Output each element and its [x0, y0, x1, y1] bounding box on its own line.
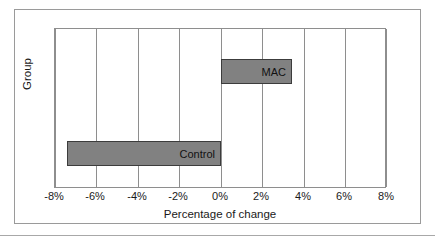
x-tick-label: 4% — [283, 191, 323, 202]
bar-label-control: Control — [180, 148, 215, 159]
x-tick-label: 0% — [200, 191, 240, 202]
gridline-x — [304, 29, 305, 187]
plot-area: MAC Control — [54, 28, 386, 188]
gridline-x — [262, 29, 263, 187]
x-tick-label: -4% — [117, 191, 157, 202]
gridline-x — [386, 29, 387, 187]
x-tick-label: 8% — [366, 191, 406, 202]
gridline-x-zero — [221, 29, 222, 187]
x-tick-label: -2% — [158, 191, 198, 202]
bottom-divider — [0, 235, 435, 236]
bar-mac[interactable]: MAC — [221, 59, 292, 84]
x-tick-label: -8% — [34, 191, 74, 202]
bar-control[interactable]: Control — [67, 141, 221, 166]
y-axis-title: Group — [22, 58, 34, 90]
figure-container: Group MAC Control -8% -6% -4% -2% 0% 2% … — [0, 0, 435, 244]
x-tick-label: 6% — [324, 191, 364, 202]
bar-label-mac: MAC — [262, 66, 286, 77]
gridline-x — [345, 29, 346, 187]
x-tick-label: -6% — [75, 191, 115, 202]
gridline-x — [55, 29, 56, 187]
x-tick-label: 2% — [241, 191, 281, 202]
x-axis-title: Percentage of change — [54, 209, 386, 221]
